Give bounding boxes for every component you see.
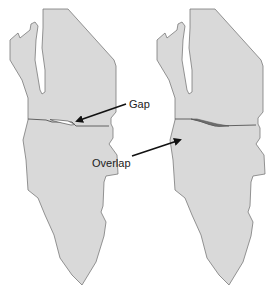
gap-overlap-diagram: Gap Overlap xyxy=(0,0,274,296)
left-panel: Gap xyxy=(10,9,150,285)
gap-label: Gap xyxy=(129,98,150,110)
right-panel xyxy=(157,9,265,285)
overlap-label: Overlap xyxy=(92,157,131,169)
bone-shape-left xyxy=(10,9,118,285)
bone-shape-right xyxy=(157,9,265,285)
